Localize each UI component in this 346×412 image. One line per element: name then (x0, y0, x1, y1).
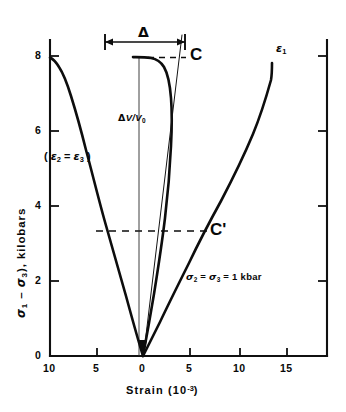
x-axis-title: Strain (10-3) (126, 384, 199, 396)
label-delta-v-v0: ΔV/V0 (118, 112, 145, 124)
delta-left-arrowhead (105, 39, 113, 46)
tangent-line (144, 35, 183, 356)
y-ticklabel-4: 4 (35, 199, 41, 211)
y-ticklabel-0: 0 (35, 349, 41, 361)
label-eps1: ε1 (276, 42, 286, 56)
chart-canvas (0, 0, 346, 412)
label-confining-pressure: σ2 = σ3 = 1 kbar (186, 271, 262, 283)
dvv0-zero: 0 (142, 117, 146, 124)
label-C: C (190, 45, 202, 65)
x-ticklabel-neg5: 5 (93, 362, 99, 374)
figure-container: σ1 – σ3), kilobars 8 6 4 2 0 10 5 0 5 10… (0, 0, 346, 412)
label-eps2-eps3: ( ε2 = ε3 ) (44, 150, 91, 164)
curve-eps2-eps3 (50, 58, 143, 357)
x-axis-title-tail: ) (194, 384, 199, 396)
x-ticklabel-0: 0 (139, 362, 145, 374)
label-C-prime: C' (210, 220, 226, 240)
axis-group (50, 40, 327, 356)
eps23-equals: = (61, 150, 74, 162)
y-axis-title-paren (8, 318, 11, 330)
x-axis-title-exponent: -3 (187, 384, 194, 393)
y-ticklabel-6: 6 (35, 124, 41, 136)
x-tick-marks (50, 348, 287, 356)
x-ticklabel-5: 5 (186, 362, 192, 374)
sigma-equals-value: = 1 kbar (220, 271, 262, 282)
x-axis-title-base: Strain (10 (126, 384, 187, 396)
eps23-open-paren: ( (44, 150, 51, 162)
eps23-close-paren: ) (84, 150, 91, 162)
y-ticklabel-8: 8 (35, 49, 41, 61)
y-ticklabel-2: 2 (35, 274, 41, 286)
dvv0-delta: Δ (118, 112, 126, 123)
sigma-symbol-3: σ (209, 271, 217, 282)
sigma-symbol-2: σ (186, 271, 194, 282)
x-ticklabel-10: 10 (233, 362, 245, 374)
x-ticklabel-neg10: 10 (43, 362, 55, 374)
y-axis-title: σ1 – σ3), kilobars (14, 208, 29, 318)
x-ticklabel-15: 15 (280, 362, 292, 374)
sigma-equals-1: = (197, 271, 209, 282)
delta-symbol-label: Δ (138, 24, 149, 40)
curve-eps1 (143, 63, 272, 356)
dvv0-v2: V (135, 112, 142, 123)
label-eps1-subscript: 1 (282, 47, 286, 56)
